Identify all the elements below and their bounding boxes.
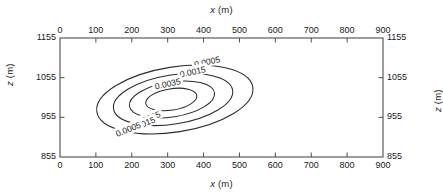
contour-label-text: 0.0015: [179, 64, 207, 79]
contour-label-text: 0.0005: [114, 120, 142, 139]
contour-line-0.0035: [144, 85, 198, 114]
contour-figure: x (m) x (m) z (m) z (m) 0010010020020030…: [0, 0, 443, 193]
contour-plot-canvas: 0.00050.00150.00350.00250.00150.0005: [0, 0, 443, 193]
contour-inline-labels-group: 0.00050.00150.00350.00250.00150.0005: [112, 53, 224, 140]
